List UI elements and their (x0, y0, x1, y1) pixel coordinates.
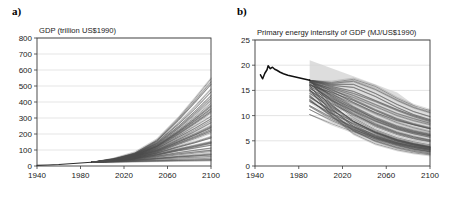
y-tick-label: 400 (19, 98, 33, 107)
y-tick-label: 100 (19, 146, 33, 155)
y-tick-label: 300 (19, 114, 33, 123)
y-tick-label: 200 (19, 130, 33, 139)
chart-panel-a: a) GDP (trillion US$1990)010020030040050… (0, 0, 225, 197)
energy-intensity-chart: Primary energy intensity of GDP (MJ/US$1… (225, 0, 450, 197)
y-tick-label: 0 (28, 162, 33, 171)
y-tick-label: 25 (241, 36, 250, 45)
historical-line (37, 162, 91, 165)
x-tick-label: 1940 (28, 171, 46, 180)
y-tick-label: 15 (241, 86, 250, 95)
y-tick-label: 20 (241, 61, 250, 70)
x-tick-label: 1980 (290, 171, 308, 180)
y-tick-label: 10 (241, 112, 250, 121)
gdp-chart: GDP (trillion US$1990)010020030040050060… (0, 0, 225, 197)
y-tick-label: 600 (19, 66, 33, 75)
y-tick-label: 0 (246, 162, 251, 171)
y-tick-label: 500 (19, 82, 33, 91)
x-tick-label: 1940 (246, 171, 264, 180)
x-tick-label: 2100 (202, 171, 220, 180)
x-tick-label: 2100 (421, 171, 439, 180)
x-tick-label: 1980 (72, 171, 90, 180)
chart-title: GDP (trillion US$1990) (39, 26, 117, 35)
chart-title: Primary energy intensity of GDP (MJ/US$1… (257, 28, 417, 37)
y-tick-label: 5 (246, 137, 251, 146)
x-tick-label: 2020 (334, 171, 352, 180)
x-tick-label: 2060 (159, 171, 177, 180)
figure-container: a) GDP (trillion US$1990)010020030040050… (0, 0, 450, 197)
historical-line (260, 66, 309, 81)
y-tick-label: 800 (19, 34, 33, 43)
x-tick-label: 2020 (115, 171, 133, 180)
chart-panel-b: b) Primary energy intensity of GDP (MJ/U… (225, 0, 450, 197)
x-tick-label: 2060 (377, 171, 395, 180)
y-tick-label: 700 (19, 50, 33, 59)
